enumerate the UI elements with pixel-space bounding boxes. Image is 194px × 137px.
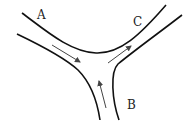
arrow-to-c <box>108 46 131 63</box>
junction-diagram: A C B <box>0 0 194 137</box>
label-b: B <box>127 98 136 112</box>
road-edge-left <box>17 34 100 120</box>
label-c: C <box>133 15 142 29</box>
label-a: A <box>36 8 46 22</box>
road-edge-right <box>113 15 182 120</box>
arrow-from-b <box>99 81 106 108</box>
junction-svg: A C B <box>0 0 194 137</box>
